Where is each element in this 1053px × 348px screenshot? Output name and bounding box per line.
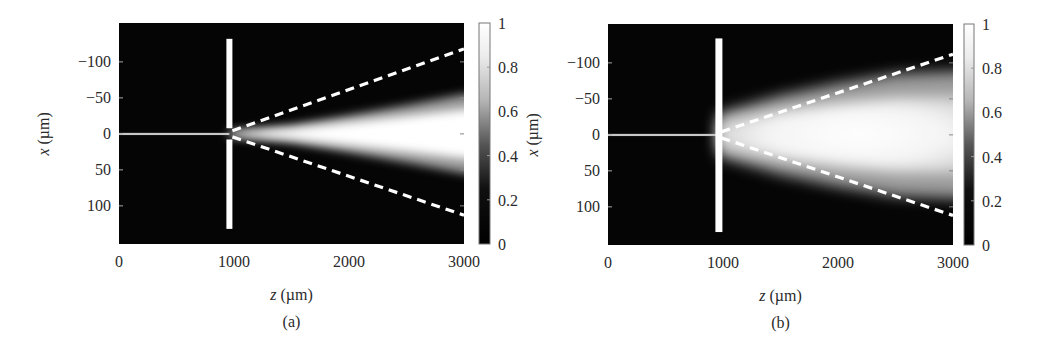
incident-beam <box>608 134 718 136</box>
slit <box>715 38 722 232</box>
y-tick-label: −100 <box>78 53 111 70</box>
colorbar-tick-label: 0.2 <box>982 193 1002 210</box>
colorbar-b <box>964 24 974 245</box>
y-tick-label: 0 <box>103 125 111 142</box>
colorbar-ticks-b: 00.20.40.60.81 <box>971 16 1002 254</box>
heatmap-plot-a <box>119 23 484 244</box>
y-axis-label-b: x (µm) <box>524 113 542 157</box>
x-axis-label-b: z (µm) <box>758 287 802 305</box>
panel-label-b: (b) <box>771 314 790 332</box>
x-tick-label: 3000 <box>448 253 480 270</box>
y-axis-label-a: x (µm) <box>35 112 53 156</box>
slit-lower <box>226 139 232 228</box>
x-axis-label-a: z (µm) <box>269 286 313 304</box>
colorbar-ticks-a: 00.20.40.60.81 <box>487 15 518 253</box>
y-tick-label: −50 <box>575 90 600 107</box>
colorbar-tick-label: 0 <box>498 236 506 253</box>
colorbar-tick-label: 0.4 <box>982 149 1002 166</box>
x-tick-label: 2000 <box>333 253 365 270</box>
colorbar-tick-label: 0.4 <box>498 148 518 165</box>
x-tick-label: 1000 <box>707 254 739 271</box>
y-tick-label: −50 <box>86 89 111 106</box>
colorbar-tick-label: 0.8 <box>982 60 1002 77</box>
slit-upper <box>226 39 232 128</box>
colorbar-tick-label: 0.8 <box>498 59 518 76</box>
x-tick-label: 1000 <box>218 253 250 270</box>
y-tick-label: 100 <box>87 197 111 214</box>
x-tick-label: 0 <box>604 254 612 271</box>
y-tick-label: −100 <box>567 54 600 71</box>
y-tick-label: 100 <box>576 198 600 215</box>
panel-a: 0100020003000−100−50050100 00.20.40.60.8… <box>35 15 518 331</box>
colorbar-tick-label: 0 <box>982 237 990 254</box>
incident-beam <box>119 133 229 135</box>
x-tick-label: 3000 <box>937 254 969 271</box>
colorbar-tick-label: 0.2 <box>498 192 518 209</box>
y-tick-label: 50 <box>584 162 600 179</box>
x-tick-label: 0 <box>115 253 123 270</box>
x-tick-label: 2000 <box>822 254 854 271</box>
panel-label-a: (a) <box>283 313 301 331</box>
colorbar-a <box>479 23 490 244</box>
panel-b: 0100020003000−100−50050100 00.20.40.60.8… <box>524 16 1002 332</box>
figure: 0100020003000−100−50050100 00.20.40.60.8… <box>0 0 1053 348</box>
colorbar-tick-label: 0.6 <box>982 104 1002 121</box>
colorbar-tick-label: 0.6 <box>498 103 518 120</box>
heatmap-plot-b <box>608 24 973 245</box>
y-tick-label: 0 <box>592 126 600 143</box>
y-tick-label: 50 <box>95 161 111 178</box>
colorbar-tick-label: 1 <box>982 16 990 33</box>
colorbar-tick-label: 1 <box>498 15 506 32</box>
